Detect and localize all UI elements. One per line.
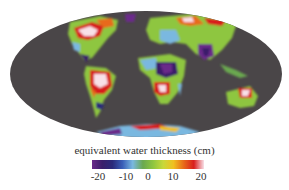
- tick-label: 10: [168, 170, 179, 182]
- colorbar: [92, 160, 204, 169]
- tick-label: -10: [119, 170, 134, 182]
- gravity-water-map-figure: equivalent water thickness (cm) -20 -10 …: [0, 0, 289, 190]
- tick-label: 20: [196, 170, 207, 182]
- colorbar-ticks: -20 -10 0 10 20: [88, 170, 212, 184]
- tick-label: -20: [91, 170, 106, 182]
- tick-label: 0: [145, 170, 151, 182]
- colorbar-label: equivalent water thickness (cm): [0, 144, 289, 156]
- world-map: [0, 0, 289, 145]
